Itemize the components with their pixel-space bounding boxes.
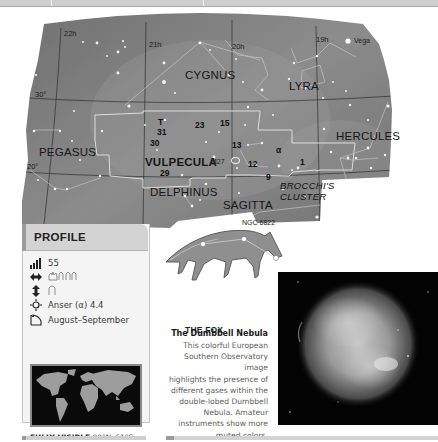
profile-row-width xyxy=(29,270,78,284)
visibility-world-map xyxy=(30,364,142,427)
caption-line: highlights the presence of xyxy=(160,374,268,385)
constellation-pegasus: PEGASUS xyxy=(39,147,96,159)
ra-label-20h: 20h xyxy=(232,43,245,51)
size-rank-icon xyxy=(29,257,43,269)
nebula-graphic xyxy=(278,272,438,425)
dec-label-20: 20° xyxy=(27,163,38,171)
star-designation: 29 xyxy=(160,169,169,178)
star-designation: 12 xyxy=(248,160,257,169)
star-designation: 15 xyxy=(220,119,229,128)
caption-line: This colorful European xyxy=(160,340,268,351)
constellation-delphinus: DELPHINUS xyxy=(150,187,218,199)
constellation-cygnus: CYGNUS xyxy=(185,70,235,82)
star-designation: 30 xyxy=(150,139,159,148)
ra-label-22h: 22h xyxy=(64,30,77,38)
asterism-label-line1: BROCCHI'S xyxy=(280,181,335,191)
profile-header: PROFILE xyxy=(22,224,148,251)
dec-label-30: 30° xyxy=(35,91,46,99)
profile-row-brightest-star: Anser (α) 4.4 xyxy=(29,298,104,312)
constellation-hercules: HERCULES xyxy=(336,131,400,143)
best-viewing-icon xyxy=(29,314,43,326)
ra-label-19h: 19h xyxy=(316,36,329,44)
best-viewing-value: August–September xyxy=(48,315,129,325)
profile-row-best-viewing: August–September xyxy=(29,313,129,327)
star-designation: 1 xyxy=(300,158,305,167)
caption-line: Southern Observatory image xyxy=(160,351,268,373)
size-rank-value: 55 xyxy=(48,258,59,268)
constellation-vulpecula: VULPECULA xyxy=(145,157,217,169)
dso-label-m27: M27 xyxy=(211,158,225,165)
profile-row-height xyxy=(29,284,56,298)
profile-title: PROFILE xyxy=(34,231,86,243)
star-designation: 13 xyxy=(232,141,241,150)
width-arrows-icon xyxy=(29,271,43,283)
dumbbell-nebula-photo xyxy=(278,272,438,425)
fox-illustration xyxy=(160,222,290,292)
next-section-header xyxy=(166,436,438,440)
caption-line: different gases within the xyxy=(160,385,268,396)
next-panel-header xyxy=(22,436,146,440)
hand-span-icon xyxy=(48,271,78,284)
nebula-marker-icon xyxy=(231,157,240,164)
star-designation: 31 xyxy=(157,128,166,137)
height-arrows-icon xyxy=(29,285,43,297)
hand-span-icon xyxy=(48,285,56,298)
ra-label-21h: 21h xyxy=(149,41,162,49)
caption-line: Nebula. Amateur xyxy=(160,407,268,418)
caption-line: instruments show more xyxy=(160,418,268,429)
constellation-lyra: LYRA xyxy=(289,81,319,93)
brightest-star-icon xyxy=(29,299,43,311)
asterism-label-line2: CLUSTER xyxy=(280,192,326,202)
profile-panel: PROFILE 55 Anser (α) 4.4 August–Se xyxy=(22,224,150,423)
brightest-star-value: Anser (α) 4.4 xyxy=(48,300,104,310)
caption-title: The Dumbbell Nebula xyxy=(160,328,268,340)
caption-line: double-lobed Dumbbell xyxy=(160,396,268,407)
star-designation: α xyxy=(276,146,281,155)
star-designation: T xyxy=(158,118,163,127)
profile-row-size-rank: 55 xyxy=(29,256,59,270)
star-label-vega: Vega xyxy=(354,37,370,44)
constellation-sagitta: SAGITTA xyxy=(223,200,273,212)
nebula-caption: The Dumbbell Nebula This colorful Europe… xyxy=(160,328,268,441)
star-designation: 23 xyxy=(195,121,204,130)
star-designation: 9 xyxy=(266,173,271,182)
world-map-graphic xyxy=(32,366,140,425)
